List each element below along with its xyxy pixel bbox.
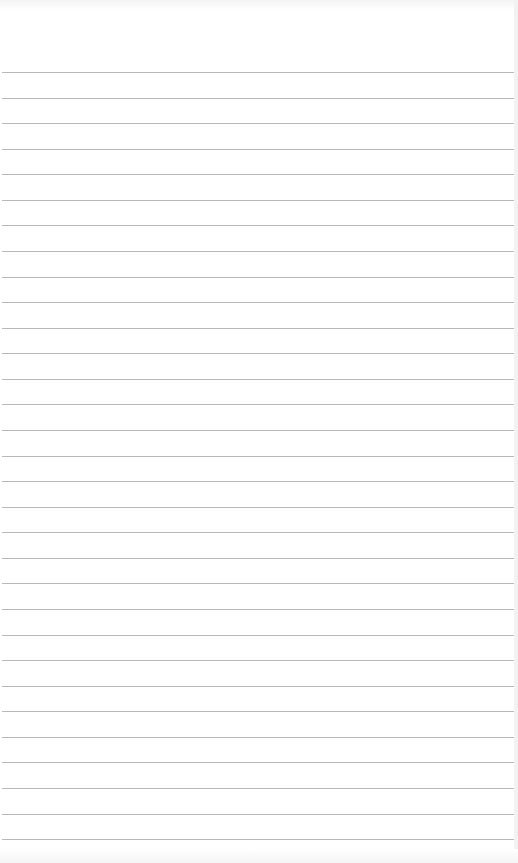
ruled-line (2, 379, 514, 380)
ruled-line (2, 353, 514, 354)
ruled-line (2, 328, 514, 329)
ruled-line (2, 277, 514, 278)
ruled-line (2, 225, 514, 226)
ruled-line (2, 123, 514, 124)
ruled-line (2, 251, 514, 252)
ruled-line (2, 609, 514, 610)
ruled-line (2, 507, 514, 508)
ruled-line (2, 72, 514, 73)
ruled-line (2, 302, 514, 303)
ruled-line (2, 430, 514, 431)
ruled-line (2, 456, 514, 457)
ruled-line (2, 686, 514, 687)
ruled-line (2, 660, 514, 661)
top-edge-shadow (0, 0, 518, 10)
ruled-line (2, 200, 514, 201)
ruled-line (2, 814, 514, 815)
ruled-line (2, 481, 514, 482)
ruled-line (2, 737, 514, 738)
ruled-line (2, 174, 514, 175)
ruled-line (2, 532, 514, 533)
bottom-edge-shadow (0, 849, 518, 863)
ruled-line (2, 98, 514, 99)
ruled-line (2, 149, 514, 150)
ruled-line (2, 839, 514, 840)
ruled-line (2, 762, 514, 763)
right-edge-shadow (514, 0, 518, 863)
ruled-line (2, 635, 514, 636)
ruled-line (2, 558, 514, 559)
ruled-line (2, 583, 514, 584)
ruled-line (2, 788, 514, 789)
ruled-paper-sheet (0, 0, 518, 863)
ruled-line (2, 404, 514, 405)
ruled-line (2, 711, 514, 712)
